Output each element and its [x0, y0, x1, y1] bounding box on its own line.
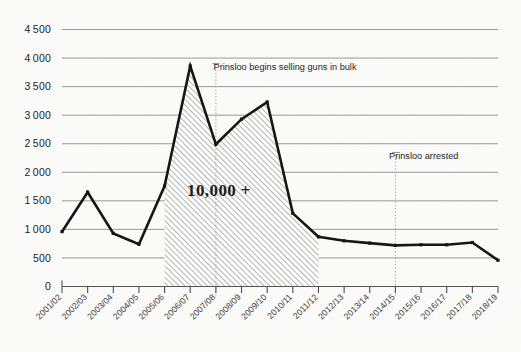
data-point-marker	[60, 230, 63, 233]
y-axis-tick-label: 2 000	[25, 166, 51, 178]
y-axis-tick-label: 0	[45, 280, 51, 292]
y-axis-tick-label: 3 500	[25, 80, 51, 92]
line-area-chart: 05001 0001 5002 0002 5003 0003 5004 0004…	[0, 0, 521, 352]
data-point-marker	[214, 143, 217, 146]
data-point-marker	[368, 241, 371, 244]
data-point-marker	[240, 118, 243, 121]
y-axis-tick-label: 500	[33, 252, 51, 264]
data-point-marker	[471, 241, 474, 244]
data-point-marker	[496, 259, 499, 262]
total-value-label: 10,000 +	[187, 181, 251, 200]
data-point-marker	[317, 235, 320, 238]
annotation-arrest: Prinsloo arrested	[389, 151, 458, 161]
shaded-area-value-label: 10,000 +	[187, 181, 251, 200]
data-point-marker	[343, 239, 346, 242]
annotation-bulk-selling: Prinsloo begins selling guns in bulk	[214, 62, 357, 72]
y-axis-tick-label: 4 500	[25, 23, 51, 35]
data-point-marker	[189, 64, 192, 67]
data-point-marker	[394, 244, 397, 247]
y-axis-tick-label: 1 000	[25, 223, 51, 235]
data-point-marker	[112, 232, 115, 235]
y-axis-tick-label: 4 000	[25, 52, 51, 64]
y-axis-tick-label: 2 500	[25, 137, 51, 149]
data-point-marker	[163, 184, 166, 187]
data-point-marker	[86, 191, 89, 194]
data-point-marker	[445, 243, 448, 246]
data-point-marker	[137, 243, 140, 246]
data-point-marker	[291, 212, 294, 215]
data-point-marker	[419, 243, 422, 246]
data-point-marker	[266, 100, 269, 103]
y-axis-tick-label: 3 000	[25, 109, 51, 121]
y-axis-tick-label: 1 500	[25, 194, 51, 206]
chart-container: 05001 0001 5002 0002 5003 0003 5004 0004…	[0, 0, 521, 352]
